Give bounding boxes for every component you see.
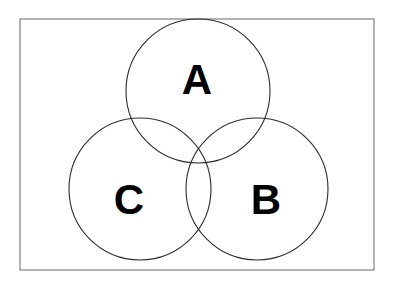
venn-label-c: C	[114, 176, 144, 223]
venn-label-b: B	[251, 176, 281, 223]
venn-diagram-figure: A C B	[0, 0, 393, 287]
venn-label-a: A	[182, 56, 212, 103]
figure-background	[0, 0, 393, 287]
venn-diagram-canvas: A C B	[0, 0, 393, 287]
